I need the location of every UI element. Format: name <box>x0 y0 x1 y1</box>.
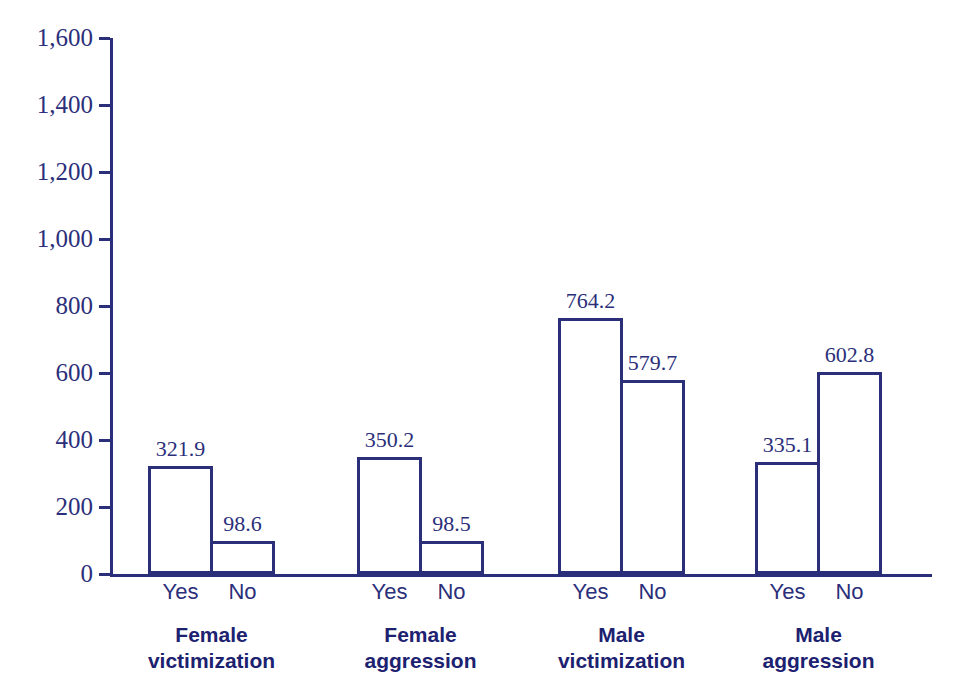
bar <box>620 380 685 574</box>
x-axis-line <box>110 574 932 577</box>
y-axis-tick-mark <box>99 171 110 174</box>
x-axis-group-label: Maleaggression <box>695 622 942 673</box>
y-axis-tick-mark <box>99 573 110 576</box>
bar-value-label: 602.8 <box>807 344 892 366</box>
bar-value-label: 321.9 <box>138 438 223 460</box>
bar <box>817 372 882 574</box>
bar <box>419 541 484 574</box>
y-axis-tick-label: 1,600 <box>5 25 93 50</box>
y-axis-tick-mark <box>99 506 110 509</box>
bar <box>357 457 422 574</box>
y-axis-tick-mark <box>99 305 110 308</box>
y-axis-tick-mark <box>99 372 110 375</box>
y-axis-tick-label: 800 <box>5 293 93 318</box>
bar-value-label: 350.2 <box>347 429 432 451</box>
plot-area: 321.998.6350.298.5764.2579.7335.1602.8 <box>110 38 932 574</box>
x-axis-tick-label: No <box>409 581 494 603</box>
y-axis-tick-label: 600 <box>5 360 93 385</box>
group-label-line-1: Male <box>695 622 942 648</box>
bar <box>210 541 275 574</box>
x-axis-tick-label: No <box>807 581 892 603</box>
y-axis-tick-mark <box>99 37 110 40</box>
bar <box>755 462 820 574</box>
bar <box>558 318 623 574</box>
y-axis-tick-mark <box>99 104 110 107</box>
y-axis-tick-mark <box>99 439 110 442</box>
x-axis-tick-label: No <box>200 581 285 603</box>
y-axis-tick-label: 400 <box>5 427 93 452</box>
y-axis-tick-label: 0 <box>5 561 93 586</box>
y-axis-tick-label: 200 <box>5 494 93 519</box>
y-axis-tick-label: 1,200 <box>5 159 93 184</box>
x-axis-tick-label: No <box>610 581 695 603</box>
y-axis-tick-mark <box>99 238 110 241</box>
bar-value-label: 764.2 <box>548 290 633 312</box>
y-axis-tick-label: 1,000 <box>5 226 93 251</box>
group-label-line-2: aggression <box>695 648 942 674</box>
bar <box>148 466 213 574</box>
bar-chart: 02004006008001,0001,2001,4001,600 321.99… <box>0 0 957 694</box>
y-axis-tick-label: 1,400 <box>5 92 93 117</box>
